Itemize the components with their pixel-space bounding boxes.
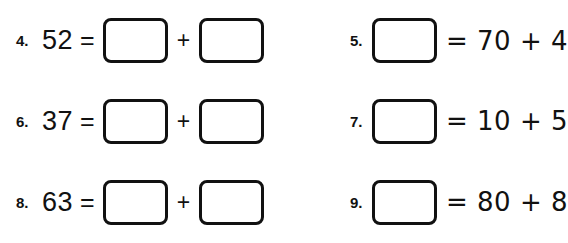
problem-number: 9. xyxy=(350,194,372,211)
problem-7: 7. = 10 + 5 xyxy=(284,81,568,161)
problem-number: 6. xyxy=(16,113,42,130)
answer-box-tens[interactable] xyxy=(103,18,168,63)
problem-value: 37 xyxy=(42,108,73,135)
plus-sign: + xyxy=(177,191,190,214)
problem-number: 7. xyxy=(350,113,372,130)
equals-sign: = xyxy=(80,109,95,134)
problem-number: 4. xyxy=(16,32,42,49)
worksheet: 4. 52 = + 5. = 70 + 4 6. 37 = + 7. = 10 … xyxy=(0,0,568,243)
answer-box-ones[interactable] xyxy=(199,18,264,63)
plus-sign: + xyxy=(177,110,190,133)
equals-sign: = xyxy=(80,28,95,53)
answer-box-ones[interactable] xyxy=(199,99,264,144)
equals-expression: = 80 + 8 xyxy=(446,189,568,215)
plus-sign: + xyxy=(177,29,190,52)
problem-value: 52 xyxy=(42,27,73,54)
problem-4: 4. 52 = + xyxy=(0,0,284,81)
problem-9: 9. = 80 + 8 xyxy=(284,161,568,243)
answer-box-sum[interactable] xyxy=(372,18,437,63)
answer-box-sum[interactable] xyxy=(372,99,437,144)
answer-box-ones[interactable] xyxy=(199,180,264,225)
answer-box-sum[interactable] xyxy=(372,180,437,225)
equals-expression: = 10 + 5 xyxy=(446,108,568,134)
problem-value: 63 xyxy=(42,189,73,216)
equals-expression: = 70 + 4 xyxy=(446,28,568,54)
problem-6: 6. 37 = + xyxy=(0,81,284,161)
answer-box-tens[interactable] xyxy=(103,99,168,144)
problem-number: 5. xyxy=(350,32,372,49)
answer-box-tens[interactable] xyxy=(103,180,168,225)
problem-8: 8. 63 = + xyxy=(0,161,284,243)
problem-5: 5. = 70 + 4 xyxy=(284,0,568,81)
equals-sign: = xyxy=(80,190,95,215)
problem-number: 8. xyxy=(16,194,42,211)
